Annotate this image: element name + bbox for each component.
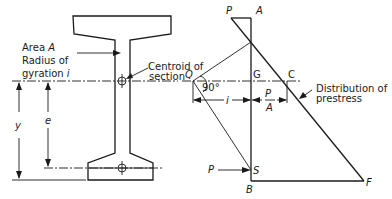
prestress-label: prestress: [316, 93, 362, 104]
section-label: section: [149, 71, 185, 82]
area-label: Area A: [22, 42, 55, 53]
arrow-icon: [299, 92, 307, 99]
force-p-label: P: [208, 164, 215, 175]
point-f: F: [366, 177, 372, 188]
e-label: e: [45, 115, 51, 126]
gyration-label: gyration i: [22, 68, 70, 79]
point-g: G: [253, 69, 261, 80]
point-a: A: [255, 5, 263, 16]
point-p-top: P: [226, 5, 233, 16]
point-b: B: [246, 184, 253, 195]
point-c: C: [288, 69, 295, 80]
y-label: y: [14, 120, 22, 131]
point-s: S: [253, 165, 260, 176]
prestress-diagram: Area A Radius of gyration i Centroid of …: [0, 0, 392, 199]
point-q: Q: [185, 69, 193, 80]
i-label: i: [226, 95, 229, 106]
arrow-icon: [113, 50, 121, 56]
p-over-a-denominator: A: [265, 102, 273, 113]
angle-label: 90°: [202, 82, 220, 93]
p-over-a-numerator: P: [265, 88, 272, 99]
dimension-i: [193, 97, 251, 103]
i-beam-section: [73, 16, 171, 180]
radius-label: Radius of: [22, 55, 69, 66]
